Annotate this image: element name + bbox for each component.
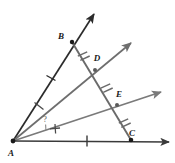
geometry-canvas: A B D E C ? (0, 0, 175, 163)
point-label-E: E (115, 89, 122, 99)
tick-segment-EC (119, 119, 131, 128)
ray-AC (13, 141, 169, 142)
point-B (70, 40, 74, 44)
point-C (129, 138, 134, 143)
point-label-B: B (57, 31, 64, 41)
point-A (11, 139, 16, 144)
point-D (93, 68, 97, 72)
ray-AD (13, 43, 131, 141)
segment-BC-transversal (72, 42, 131, 140)
unknown-angle-label: ? (43, 115, 47, 124)
point-label-D: D (93, 53, 101, 63)
geometry-diagram: A B D E C ? (0, 0, 175, 163)
point-label-C: C (129, 128, 136, 138)
ray-AE (13, 92, 161, 141)
point-E (115, 103, 119, 107)
point-label-A: A (7, 148, 14, 158)
ray-AB (13, 14, 94, 141)
